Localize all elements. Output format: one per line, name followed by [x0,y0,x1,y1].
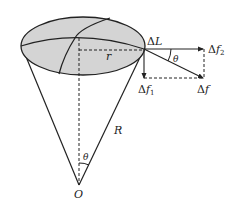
label-R: R [113,124,122,137]
label-theta-apex: θ [83,152,89,162]
label-O: O [74,188,83,201]
label-theta-force: θ [173,54,179,64]
theta-arc-force [168,49,171,61]
theta-arc-apex [79,163,89,165]
label-r: r [106,50,112,63]
top-surface-ellipse [21,17,145,75]
label-delta-f: Δf [197,83,211,96]
label-delta-f2: Δf2 [208,43,225,57]
label-delta-L: ΔL [147,35,162,48]
cone-diagram: ΔL Δf2 Δf1 Δf r θ R θ O [0,0,237,213]
label-delta-f1: Δf1 [138,83,155,97]
